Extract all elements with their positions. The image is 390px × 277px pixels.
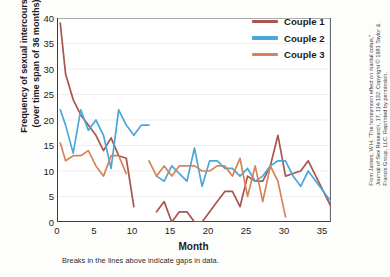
series-line-couple-3-segment-2 [149,158,286,217]
y-tick-5: 5 [26,191,54,202]
source-credit-line-1: From James, W.H. “The honeymoon effect o… [368,0,375,186]
series-line-couple-2-segment-1 [60,110,149,169]
y-tick-10: 10 [26,166,54,177]
chart-caption: Breaks in the lines above indicate gaps … [62,256,219,265]
y-tick-35: 35 [26,38,54,49]
series-line-couple-1-segment-1 [60,23,134,207]
x-tick-25: 25 [231,225,261,236]
y-tick-15: 15 [26,140,54,151]
x-tick-35: 35 [307,225,337,236]
legend: Couple 1 Couple 2 Couple 3 [252,16,325,60]
source-credit-line-2: Journal of Sex Research, 17, 114-132. Co… [375,0,382,186]
y-tick-20: 20 [26,115,54,126]
legend-label-couple-3: Couple 3 [284,49,325,60]
legend-label-couple-2: Couple 2 [284,33,325,44]
y-tick-25: 25 [26,89,54,100]
x-tick-5: 5 [79,225,109,236]
legend-item-couple-1[interactable]: Couple 1 [252,16,325,27]
legend-item-couple-2[interactable]: Couple 2 [252,33,325,44]
x-tick-30: 30 [269,225,299,236]
legend-swatch-couple-1 [252,20,278,23]
legend-item-couple-3[interactable]: Couple 3 [252,49,325,60]
legend-swatch-couple-2 [252,36,278,39]
x-tick-0: 0 [42,225,72,236]
x-axis-title: Month [57,241,330,252]
legend-swatch-couple-3 [252,53,278,56]
legend-label-couple-1: Couple 1 [284,16,325,27]
source-credit-line-3: Francis Group, LLC. Reprinted by permiss… [383,0,390,186]
x-tick-20: 20 [193,225,223,236]
y-tick-30: 30 [26,64,54,75]
x-tick-15: 15 [155,225,185,236]
source-credit: From James, W.H. “The honeymoon effect o… [368,0,390,186]
y-tick-40: 40 [26,13,54,24]
x-tick-10: 10 [117,225,147,236]
